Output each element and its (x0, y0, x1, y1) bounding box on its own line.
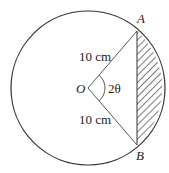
circle-segment-diagram: A B O 10 cm 10 cm 2θ (0, 0, 169, 173)
center-o-label: O (76, 81, 86, 96)
point-a-label: A (136, 11, 145, 26)
angle-arc (99, 75, 105, 101)
radius-ob-label: 10 cm (79, 112, 111, 127)
shaded-segment (137, 31, 162, 145)
radius-oa-label: 10 cm (79, 49, 111, 64)
angle-label: 2θ (108, 81, 121, 96)
point-b-label: B (136, 148, 144, 163)
